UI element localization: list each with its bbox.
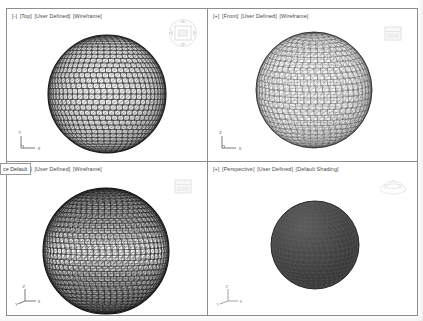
viewport-toggle-label[interactable]: [+] (213, 13, 219, 19)
ucs-icon-bottom-left: Z X Y (15, 283, 45, 307)
viewport-view-label[interactable]: [Top] (20, 13, 32, 19)
viewport-label-top-right: [+] [Front] [User Defined] [Wireframe] (213, 12, 309, 20)
svg-text:X: X (240, 299, 243, 304)
view-cube-icon-top-left[interactable] (166, 18, 200, 50)
viewport-preset-label[interactable]: [User Defined] (241, 13, 277, 19)
viewport-label-bottom-right: [+] [Perspective] [User Defined] [Defaul… (213, 165, 340, 173)
svg-text:Z: Z (226, 284, 229, 289)
scan-edge-bottom (0, 316, 423, 321)
svg-text:Y: Y (18, 130, 21, 135)
svg-text:Z: Z (219, 130, 222, 135)
ucs-icon-top-left: Y X (15, 129, 45, 153)
view-cube-icon-top-right[interactable] (376, 18, 410, 50)
viewport-toggle-label[interactable]: [+] (213, 166, 219, 172)
viewport-style-label[interactable]: [Default Shading] (296, 166, 339, 172)
viewport-bottom-left[interactable]: [-] [Top] [User Defined] [Wireframe] (6, 162, 208, 316)
viewport-grid: [-] [Top] [User Defined] [Wireframe] (6, 8, 418, 316)
svg-text:X: X (38, 299, 41, 304)
viewport-preset-label[interactable]: [User Defined] (35, 166, 71, 172)
ucs-icon-bottom-right: Z X Y (216, 283, 246, 307)
svg-text:Z: Z (23, 284, 26, 289)
viewport-preset-label[interactable]: [User Defined] (257, 166, 293, 172)
viewport-style-label[interactable]: [Wireframe] (73, 166, 102, 172)
viewport-style-label[interactable]: [Wireframe] (73, 13, 102, 19)
cad-application-window: [-] [Top] [User Defined] [Wireframe] (0, 0, 423, 321)
sphere-model-bottom-left[interactable] (41, 186, 171, 316)
svg-text:Y: Y (217, 302, 220, 307)
viewport-view-label[interactable]: [Front] (222, 13, 238, 19)
viewport-top-right[interactable]: [+] [Front] [User Defined] [Wireframe] (208, 8, 418, 162)
visual-style-tooltip[interactable]: ce Default (0, 163, 31, 175)
scan-edge-right (417, 0, 423, 321)
sphere-model-bottom-right[interactable] (269, 199, 361, 291)
view-cube-icon-bottom-left[interactable] (166, 171, 200, 203)
viewport-toggle-label[interactable]: [-] (12, 13, 17, 19)
view-cube-icon-bottom-right[interactable] (376, 171, 410, 203)
ucs-icon-top-right: Z X (216, 129, 246, 153)
viewport-bottom-right[interactable]: [+] [Perspective] [User Defined] [Defaul… (208, 162, 418, 316)
sphere-model-top-left[interactable] (46, 33, 168, 155)
viewport-style-label[interactable]: [Wireframe] (279, 13, 308, 19)
sphere-model-top-right[interactable] (254, 30, 374, 150)
svg-text:Y: Y (15, 302, 18, 307)
viewport-view-label[interactable]: [Perspective] (222, 166, 254, 172)
svg-text:X: X (38, 146, 41, 151)
viewport-preset-label[interactable]: [User Defined] (35, 13, 71, 19)
viewport-top-left[interactable]: [-] [Top] [User Defined] [Wireframe] (6, 8, 208, 162)
viewport-label-top-left: [-] [Top] [User Defined] [Wireframe] (12, 12, 103, 20)
svg-text:X: X (239, 146, 242, 151)
